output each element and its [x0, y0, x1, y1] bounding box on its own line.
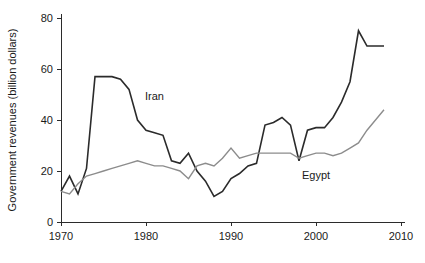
axis-lines-group	[61, 14, 405, 222]
series-line-iran	[61, 31, 384, 197]
series-line-egypt	[61, 110, 384, 194]
y-axis-ticks-group: 020406080	[41, 12, 61, 228]
series-label-egypt: Egypt	[302, 169, 330, 181]
y-tick-label: 40	[41, 114, 53, 126]
y-tick-label: 0	[47, 216, 53, 228]
x-tick-label: 2010	[389, 230, 413, 242]
y-tick-label: 20	[41, 165, 53, 177]
y-tick-label: 80	[41, 12, 53, 24]
series-annotations-group: IranEgypt	[145, 90, 330, 181]
chart-container: Government revenues (billion dollars) 02…	[0, 0, 425, 263]
line-chart: Government revenues (billion dollars) 02…	[0, 0, 425, 263]
y-axis-title-group: Government revenues (billion dollars)	[6, 29, 18, 212]
x-tick-label: 1990	[219, 230, 243, 242]
y-axis-title: Government revenues (billion dollars)	[6, 29, 18, 212]
x-tick-label: 1980	[134, 230, 158, 242]
y-tick-label: 60	[41, 63, 53, 75]
series-label-iran: Iran	[145, 90, 164, 102]
x-tick-label: 1970	[49, 230, 73, 242]
x-tick-label: 2000	[304, 230, 328, 242]
x-axis-ticks-group: 19701980199020002010	[49, 222, 413, 242]
data-series-group	[61, 31, 384, 197]
